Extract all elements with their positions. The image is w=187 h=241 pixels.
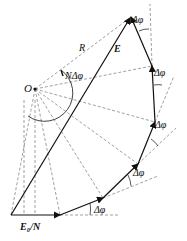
step-angle-label-4: Δφ <box>132 167 145 178</box>
resultant-label: E <box>113 43 121 54</box>
step-angle-label-1: Δφ <box>131 14 144 25</box>
center-label: O <box>24 82 32 94</box>
step-angle-label-3: Δφ <box>154 119 167 130</box>
radius-label: R <box>78 42 85 53</box>
phasor-diagram: O R E NΔφ Δφ Δφ Δφ Δφ Δφ E₀/N <box>0 0 187 241</box>
center-point <box>33 87 36 90</box>
total-angle-label: NΔφ <box>64 70 84 81</box>
step-angle-label-5: Δφ <box>93 204 106 215</box>
step-angle-arcs <box>90 29 162 215</box>
step-angle-label-2: Δφ <box>153 67 166 78</box>
unit-phasor-label: E₀/N <box>19 221 41 232</box>
